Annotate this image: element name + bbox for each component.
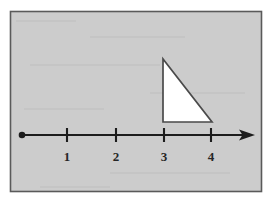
tick-label-4: 4 (208, 149, 215, 164)
noise-overlay (11, 12, 262, 192)
number-line-diagram: 1 2 3 4 (0, 0, 272, 202)
tick-label-2: 2 (113, 149, 120, 164)
tick-label-1: 1 (64, 149, 71, 164)
figure-root: 1 2 3 4 (0, 0, 272, 202)
tick-label-3: 3 (161, 149, 168, 164)
origin-dot (19, 132, 26, 139)
